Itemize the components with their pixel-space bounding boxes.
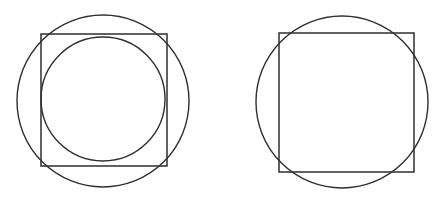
geometric-figures-svg <box>0 0 447 202</box>
diagram-canvas <box>0 0 447 202</box>
right-figure-group <box>256 16 428 188</box>
square <box>279 33 414 172</box>
left-figure-group <box>17 15 189 187</box>
circle <box>256 16 428 188</box>
inscribed-circle <box>41 37 165 161</box>
